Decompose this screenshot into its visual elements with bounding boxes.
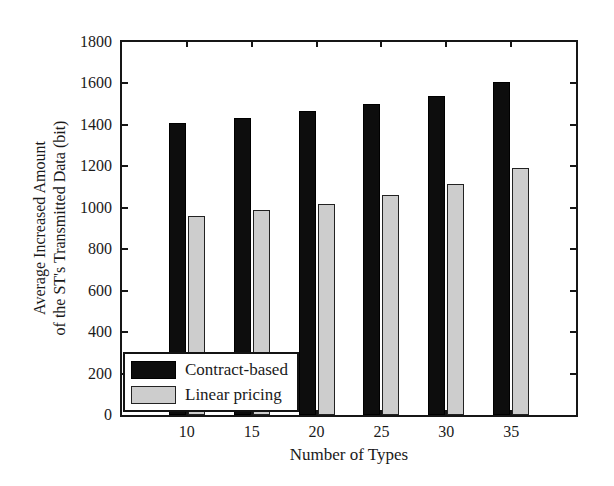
x-tick-label: 10: [179, 422, 195, 442]
y-tick-mark: [122, 124, 128, 126]
x-tick-label: 20: [309, 422, 325, 442]
legend-swatch-linear-pricing: [131, 386, 176, 404]
bar-linear-pricing-25: [382, 195, 399, 415]
x-tick-label: 35: [503, 422, 519, 442]
x-tick-mark: [186, 42, 188, 47]
y-tick-mark: [570, 373, 576, 375]
y-tick-label: 600: [58, 281, 112, 301]
y-tick-mark: [122, 82, 128, 84]
x-tick-mark: [445, 42, 447, 47]
x-axis-ticks: 101520253035: [122, 422, 576, 442]
bar-contract-based-25: [363, 104, 380, 415]
y-tick-label: 1200: [58, 156, 112, 176]
bar-linear-pricing-35: [512, 168, 529, 415]
y-axis-ticks: 020040060080010001200140016001800: [58, 0, 112, 486]
x-axis-title: Number of Types: [120, 445, 578, 465]
legend-item-linear-pricing: Linear pricing: [131, 383, 288, 406]
legend-label-contract-based: Contract-based: [185, 360, 288, 380]
legend-item-contract-based: Contract-based: [131, 358, 288, 381]
legend-swatch-contract-based: [131, 361, 176, 379]
y-axis-title-line1: Average Increased Amount: [30, 28, 50, 428]
figure: Average Increased Amount of the ST's Tra…: [0, 0, 614, 486]
y-tick-mark: [122, 165, 128, 167]
y-tick-label: 1000: [58, 198, 112, 218]
bar-linear-pricing-20: [318, 204, 335, 415]
plot-area: Contract-based Linear pricing: [120, 40, 578, 417]
x-tick-label: 15: [244, 422, 260, 442]
bar-contract-based-30: [428, 96, 445, 415]
y-tick-mark: [570, 248, 576, 250]
x-tick-mark: [380, 42, 382, 47]
legend: Contract-based Linear pricing: [123, 352, 299, 412]
bar-contract-based-20: [299, 111, 316, 415]
y-tick-label: 400: [58, 322, 112, 342]
y-tick-mark: [570, 165, 576, 167]
x-tick-mark: [251, 42, 253, 47]
y-tick-mark: [570, 82, 576, 84]
y-tick-mark: [122, 331, 128, 333]
y-tick-mark: [570, 331, 576, 333]
y-tick-mark: [122, 207, 128, 209]
bar-linear-pricing-30: [447, 184, 464, 415]
y-tick-label: 1800: [58, 32, 112, 52]
y-tick-mark: [570, 290, 576, 292]
x-tick-label: 30: [438, 422, 454, 442]
y-tick-label: 200: [58, 364, 112, 384]
y-tick-mark: [122, 290, 128, 292]
bar-contract-based-35: [493, 82, 510, 415]
y-tick-mark: [570, 124, 576, 126]
y-tick-mark: [570, 207, 576, 209]
y-tick-label: 800: [58, 239, 112, 259]
x-tick-mark: [316, 42, 318, 47]
y-tick-label: 1600: [58, 73, 112, 93]
y-tick-label: 0: [58, 405, 112, 425]
x-tick-label: 25: [373, 422, 389, 442]
y-tick-mark: [122, 248, 128, 250]
y-tick-label: 1400: [58, 115, 112, 135]
legend-label-linear-pricing: Linear pricing: [185, 385, 282, 405]
x-tick-mark: [510, 42, 512, 47]
